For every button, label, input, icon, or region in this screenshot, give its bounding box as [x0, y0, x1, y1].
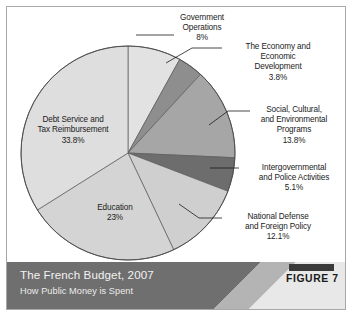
slice-label-debt-service: Debt Service and Tax Reimbursement 33.8%	[14, 115, 132, 146]
slice-label-defense: National Defense and Foreign Policy 12.1…	[220, 212, 336, 243]
slice-label-government-operations: Government Operations 8%	[152, 13, 252, 44]
figure-badge-bar	[289, 264, 334, 271]
pie-slice-group	[21, 46, 235, 260]
figure-container: Debt Service and Tax Reimbursement 33.8%…	[0, 0, 354, 318]
slice-label-economy: The Economy and Economic Development 3.8…	[222, 42, 334, 83]
slice-label-intergovernmental: Intergovernmental and Police Activities …	[236, 163, 352, 194]
figure-number-label: FIGURE 7	[286, 273, 339, 284]
figure-subtitle: How Public Money is Spent	[20, 286, 133, 296]
figure-title: The French Budget, 2007	[20, 268, 154, 281]
slice-label-social: Social, Cultural, and Environmental Prog…	[238, 105, 350, 146]
slice-label-education: Education 23%	[77, 203, 153, 224]
